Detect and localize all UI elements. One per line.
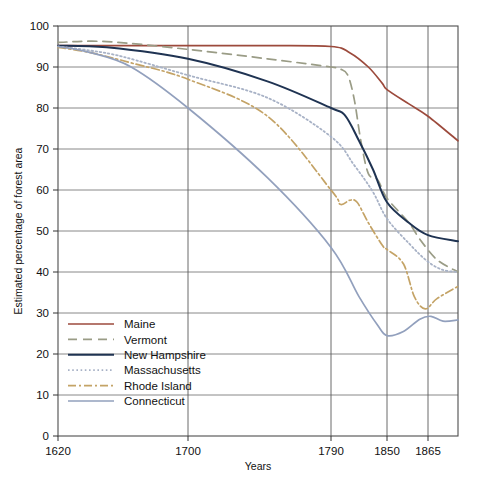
series-lines bbox=[58, 41, 458, 336]
x-tick-label: 1620 bbox=[45, 445, 71, 457]
legend-label-vermont: Vermont bbox=[124, 334, 168, 346]
x-tick-label: 1700 bbox=[175, 445, 201, 457]
y-tick-label: 70 bbox=[36, 143, 49, 155]
legend-label-rhode-island: Rhode Island bbox=[124, 380, 192, 392]
series-line-rhode-island bbox=[58, 47, 458, 309]
y-axis-title: Estimated percentage of forest area bbox=[12, 147, 24, 314]
y-tick-label: 40 bbox=[36, 266, 49, 278]
series-line-new-hampshire bbox=[58, 46, 458, 242]
legend-label-massachusetts: Massachusetts bbox=[124, 364, 201, 376]
y-tick-label: 90 bbox=[36, 61, 49, 73]
x-tick-label: 1865 bbox=[415, 445, 441, 457]
y-tick-label: 30 bbox=[36, 307, 49, 319]
x-tick-label: 1790 bbox=[318, 445, 344, 457]
y-tick-label: 50 bbox=[36, 225, 49, 237]
series-line-vermont bbox=[58, 41, 458, 272]
chart-legend: MaineVermontNew HampshireMassachusettsRh… bbox=[68, 318, 206, 407]
y-tick-label: 20 bbox=[36, 348, 49, 360]
legend-label-new-hampshire: New Hampshire bbox=[124, 349, 206, 361]
series-line-connecticut bbox=[58, 47, 458, 336]
y-axis-ticks: 0102030405060708090100 bbox=[30, 20, 58, 442]
series-line-massachusetts bbox=[58, 47, 458, 273]
y-tick-label: 100 bbox=[30, 20, 49, 32]
x-axis-title: Years bbox=[245, 460, 271, 472]
chart-canvas: 0102030405060708090100 16201700179018501… bbox=[0, 0, 477, 485]
forest-area-line-chart: 0102030405060708090100 16201700179018501… bbox=[0, 0, 477, 485]
y-tick-label: 80 bbox=[36, 102, 49, 114]
y-tick-label: 10 bbox=[36, 389, 49, 401]
legend-label-connecticut: Connecticut bbox=[124, 395, 186, 407]
legend-label-maine: Maine bbox=[124, 318, 155, 330]
y-tick-label: 0 bbox=[43, 430, 49, 442]
x-tick-label: 1850 bbox=[374, 445, 400, 457]
y-tick-label: 60 bbox=[36, 184, 49, 196]
x-axis-ticks: 16201700179018501865 bbox=[45, 436, 441, 457]
